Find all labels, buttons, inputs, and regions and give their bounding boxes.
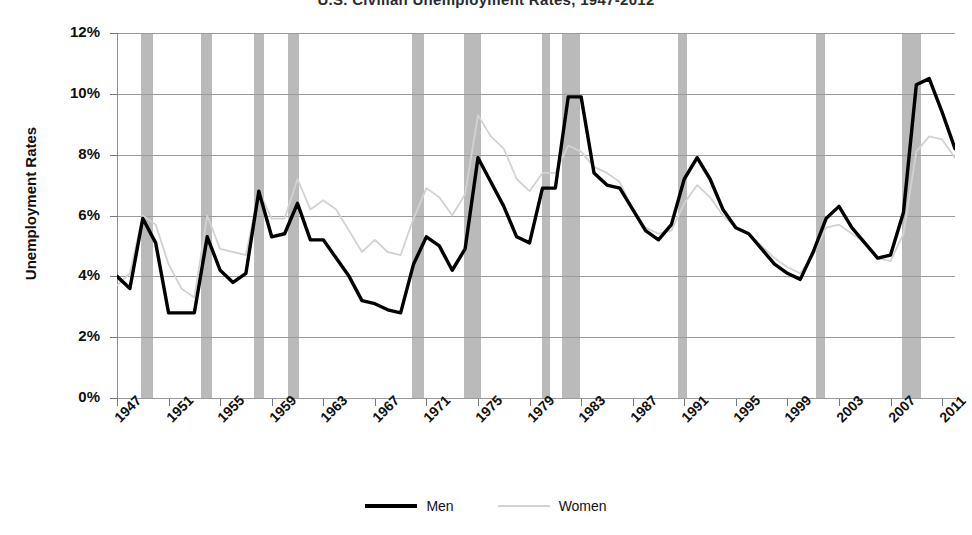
chart-legend: Men Women xyxy=(0,498,972,514)
legend-swatch-men-icon xyxy=(365,504,417,508)
y-tick-label: 6% xyxy=(38,206,100,223)
y-axis-title: Unemployment Rates xyxy=(22,24,39,384)
x-tick-mark xyxy=(169,399,170,406)
x-tick-mark xyxy=(736,399,737,406)
legend-item-women[interactable]: Women xyxy=(498,498,607,514)
series-line-women xyxy=(117,115,955,298)
x-tick-mark xyxy=(272,399,273,406)
y-tick-label: 0% xyxy=(38,388,100,405)
x-tick-mark xyxy=(478,399,479,406)
x-tick-mark xyxy=(117,399,118,406)
x-tick-mark xyxy=(891,399,892,406)
y-tick-label: 4% xyxy=(38,266,100,283)
x-tick-mark xyxy=(942,399,943,406)
x-tick-mark xyxy=(375,399,376,406)
legend-item-men[interactable]: Men xyxy=(365,498,453,514)
y-tick-label: 12% xyxy=(38,23,100,40)
x-tick-mark xyxy=(220,399,221,406)
legend-label-men: Men xyxy=(426,498,453,514)
series-lines xyxy=(117,33,955,399)
series-line-men xyxy=(117,79,955,313)
unemployment-rate-chart: U.S. Civilian Unemployment Rates, 1947-2… xyxy=(0,0,972,535)
x-tick-mark xyxy=(839,399,840,406)
chart-title: U.S. Civilian Unemployment Rates, 1947-2… xyxy=(0,0,972,8)
y-tick-label: 2% xyxy=(38,327,100,344)
legend-swatch-women-icon xyxy=(498,505,550,507)
x-tick-mark xyxy=(633,399,634,406)
y-tick-label: 8% xyxy=(38,145,100,162)
x-tick-mark xyxy=(581,399,582,406)
x-tick-mark xyxy=(530,399,531,406)
y-tick-label: 10% xyxy=(38,84,100,101)
legend-label-women: Women xyxy=(559,498,607,514)
